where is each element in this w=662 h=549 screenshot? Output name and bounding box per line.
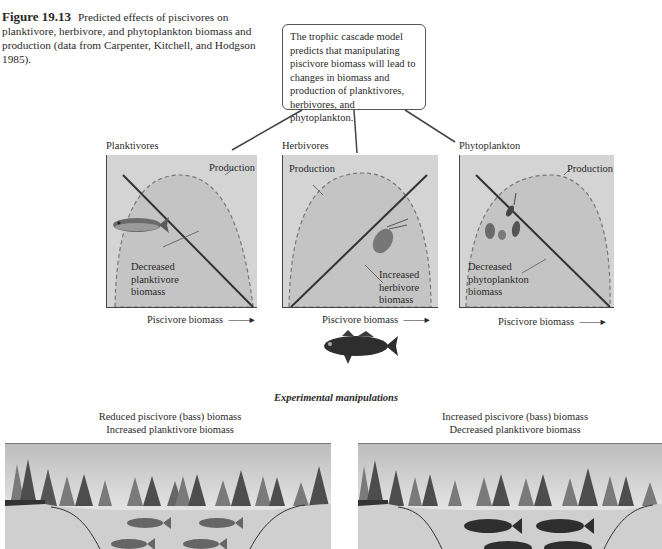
tree-line bbox=[10, 459, 329, 506]
tree-line bbox=[358, 460, 658, 506]
biomass-label: Decreased phytoplankton biomass bbox=[468, 261, 558, 299]
lake-scene-bass bbox=[358, 443, 662, 549]
arrow-right-icon: ——▸ bbox=[226, 314, 255, 325]
x-axis-label: Piscivore biomass ——▸ bbox=[147, 313, 255, 325]
arrow-right-icon: ——▸ bbox=[577, 316, 606, 327]
planktivores-chart: Production Decreased planktivore biomass bbox=[106, 155, 257, 308]
right-scene-label: Increased piscivore (bass) biomass Decre… bbox=[400, 410, 630, 436]
biomass-label: Decreased planktivore biomass bbox=[131, 261, 211, 299]
bass-fish-icon bbox=[318, 330, 402, 370]
arrow-right-icon: ——▸ bbox=[401, 314, 430, 325]
x-axis-label: Piscivore biomass ——▸ bbox=[498, 315, 606, 327]
panel-title-planktivores: Planktivores bbox=[106, 140, 159, 151]
experiment-title: Experimental manipulations bbox=[274, 392, 398, 403]
herbivores-chart: Production Increased herbivore biomass bbox=[282, 155, 438, 308]
lake-scene-planktivores bbox=[5, 443, 331, 549]
biomass-label: Increased herbivore biomass bbox=[379, 269, 439, 307]
production-label: Production bbox=[567, 163, 613, 176]
lake-illustration bbox=[5, 444, 331, 549]
panel-title-phytoplankton: Phytoplankton bbox=[459, 140, 520, 151]
callout-connectors bbox=[0, 0, 662, 160]
phytoplankton-chart: Production Decreased phytoplankton bioma… bbox=[459, 155, 614, 308]
panel-title-herbivores: Herbivores bbox=[282, 140, 329, 151]
production-label: Production bbox=[289, 163, 335, 176]
production-label: Production bbox=[209, 162, 255, 175]
x-axis-label: Piscivore biomass ——▸ bbox=[322, 313, 430, 325]
left-scene-label: Reduced piscivore (bass) biomass Increas… bbox=[60, 410, 280, 436]
lake-illustration bbox=[358, 444, 662, 549]
